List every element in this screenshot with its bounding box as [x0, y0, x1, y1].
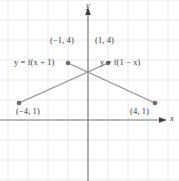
label-point-neg4-1: (−4, 1) [16, 107, 40, 116]
y-axis [85, 7, 91, 181]
grid-lines [0, 0, 179, 181]
label-point-4-1: (4, 1) [130, 107, 149, 116]
endpoint-dots [17, 61, 158, 106]
label-point-neg1-4: (−1, 4) [50, 36, 74, 45]
x-axis-label: x [170, 114, 174, 123]
graph-figure: (−1, 4) (1, 4) (−4, 1) (4, 1) y = f(x + … [0, 0, 179, 181]
equation-label-right: y = f(1 − x) [100, 58, 141, 67]
equation-label-left: y = f(x + 1) [14, 58, 55, 67]
y-axis-label: y [86, 1, 90, 10]
x-axis [0, 117, 167, 122]
segment-f-x-plus-1 [19, 63, 108, 103]
graph-canvas [0, 0, 179, 181]
segment-f-1-minus-x [68, 63, 155, 103]
label-point-1-4: (1, 4) [95, 36, 114, 45]
